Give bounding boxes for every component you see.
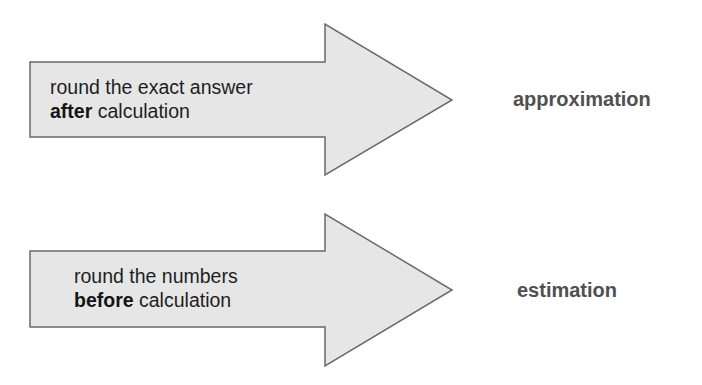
- arrow-after-line1: round the exact answer: [50, 75, 253, 99]
- arrow-after-line2-rest: calculation: [92, 100, 190, 122]
- arrow-before-line2-rest: calculation: [134, 289, 232, 311]
- arrow-before-text: round the numbers before calculation: [74, 264, 238, 312]
- arrow-after-text: round the exact answer after calculation: [50, 75, 253, 123]
- keyword-before: before: [74, 289, 134, 311]
- keyword-after: after: [50, 100, 92, 122]
- result-estimation: estimation: [517, 279, 617, 302]
- arrow-before-line1: round the numbers: [74, 264, 238, 288]
- arrow-before-line2: before calculation: [74, 288, 238, 312]
- arrow-after-line2: after calculation: [50, 99, 253, 123]
- arrows-layer: [0, 0, 702, 385]
- result-approximation: approximation: [513, 88, 651, 111]
